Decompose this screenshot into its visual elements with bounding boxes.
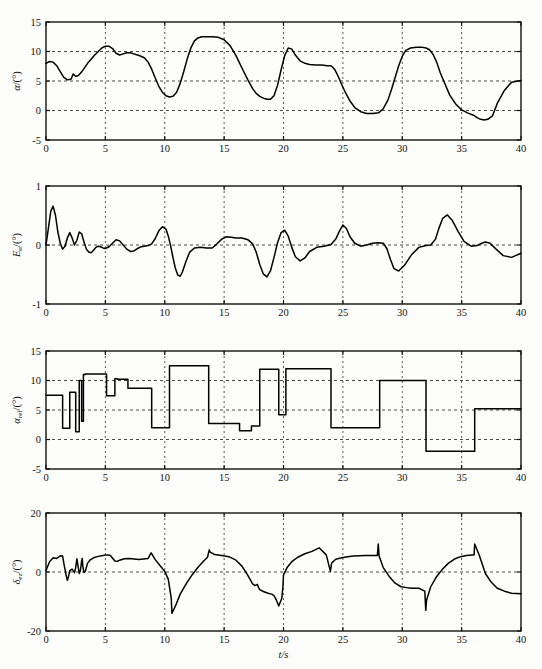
x-tick-label: 10 bbox=[160, 307, 171, 318]
x-tick-label: 5 bbox=[103, 143, 108, 154]
x-tick-label: 30 bbox=[397, 143, 408, 154]
x-tick-label: 0 bbox=[43, 143, 48, 154]
y-axis-title: α/(°) bbox=[11, 71, 23, 91]
x-tick-label: 20 bbox=[278, 634, 289, 645]
y-tick-label: 10 bbox=[31, 46, 42, 57]
x-tick-label: 30 bbox=[397, 634, 408, 645]
multi-panel-chart: 0510152025303540-5051015α/(°)05101520253… bbox=[0, 0, 542, 669]
y-axis-title: Eα/(°) bbox=[11, 232, 24, 258]
x-tick-label: 0 bbox=[43, 634, 48, 645]
x-tick-label: 5 bbox=[103, 307, 108, 318]
x-tick-label: 30 bbox=[397, 307, 408, 318]
x-tick-label: 25 bbox=[338, 634, 349, 645]
x-tick-label: 15 bbox=[219, 143, 230, 154]
y-tick-label: 5 bbox=[36, 405, 41, 416]
x-tick-label: 5 bbox=[103, 472, 108, 483]
x-tick-label: 20 bbox=[278, 307, 289, 318]
x-tick-label: 0 bbox=[43, 307, 48, 318]
x-tick-label: 40 bbox=[516, 307, 527, 318]
x-tick-label: 35 bbox=[456, 634, 467, 645]
x-tick-label: 35 bbox=[456, 143, 467, 154]
x-tick-label: 20 bbox=[278, 472, 289, 483]
x-tick-label: 10 bbox=[160, 472, 171, 483]
x-tick-label: 40 bbox=[516, 143, 527, 154]
x-tick-label: 30 bbox=[397, 472, 408, 483]
figure-caption bbox=[0, 655, 542, 669]
data-series-alpha_ref bbox=[46, 366, 521, 452]
x-tick-label: 25 bbox=[338, 143, 349, 154]
y-tick-label: 15 bbox=[31, 346, 42, 357]
x-tick-label: 10 bbox=[160, 634, 171, 645]
x-tick-label: 35 bbox=[456, 307, 467, 318]
x-tick-label: 5 bbox=[103, 634, 108, 645]
panel-alpha: 0510152025303540-5051015α/(°) bbox=[11, 17, 526, 154]
x-tick-label: 15 bbox=[219, 634, 230, 645]
y-tick-label: -5 bbox=[32, 135, 41, 146]
x-tick-label: 40 bbox=[516, 472, 527, 483]
panel-delta: 0510152025303540-20020δez/(°)t/s bbox=[11, 508, 526, 660]
x-tick-label: 25 bbox=[338, 307, 349, 318]
y-tick-label: 20 bbox=[31, 508, 42, 519]
x-tick-label: 40 bbox=[516, 634, 527, 645]
x-tick-label: 15 bbox=[219, 307, 230, 318]
y-tick-label: 15 bbox=[31, 17, 42, 28]
x-tick-label: 20 bbox=[278, 143, 289, 154]
y-axis-title: δez/(°) bbox=[11, 559, 24, 585]
y-axis-title: αref/(°) bbox=[11, 396, 24, 424]
panel-error: 0510152025303540-101Eα/(°) bbox=[11, 181, 526, 318]
figure-container: 0510152025303540-5051015α/(°)05101520253… bbox=[0, 0, 542, 669]
y-tick-label: 0 bbox=[36, 567, 41, 578]
y-tick-label: -20 bbox=[27, 626, 41, 637]
y-tick-label: 5 bbox=[36, 76, 41, 87]
y-tick-label: 10 bbox=[31, 375, 42, 386]
y-tick-label: 0 bbox=[36, 434, 41, 445]
panel-alpha-ref: 0510152025303540-5051015αref/(°) bbox=[11, 346, 526, 483]
x-tick-label: 35 bbox=[456, 472, 467, 483]
x-tick-label: 25 bbox=[338, 472, 349, 483]
y-tick-label: 0 bbox=[36, 240, 41, 251]
y-tick-label: 0 bbox=[36, 105, 41, 116]
x-tick-label: 15 bbox=[219, 472, 230, 483]
x-tick-label: 0 bbox=[43, 472, 48, 483]
y-tick-label: -5 bbox=[32, 464, 41, 475]
x-tick-label: 10 bbox=[160, 143, 171, 154]
y-tick-label: -1 bbox=[32, 299, 41, 310]
y-tick-label: 1 bbox=[36, 181, 41, 192]
